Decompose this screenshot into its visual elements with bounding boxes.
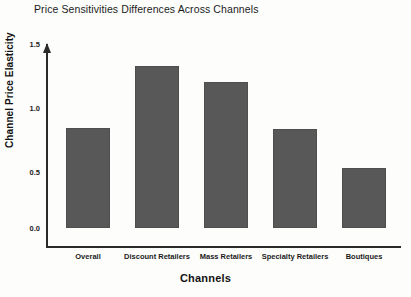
bars-layer — [48, 36, 401, 248]
bar-overall[interactable] — [66, 128, 110, 228]
bar-specialty-retailers[interactable] — [273, 129, 317, 228]
y-tick-label: 1.0 — [30, 104, 40, 113]
bar-group — [204, 36, 248, 228]
bar-mass-retailers[interactable] — [204, 82, 248, 228]
bar-group — [135, 36, 179, 228]
y-axis-title: Channel Price Elasticity — [4, 32, 15, 148]
chart-title: Price Sensitivities Differences Across C… — [34, 3, 259, 15]
bar-group — [273, 36, 317, 228]
y-tick-label: 0.5 — [30, 168, 40, 177]
bar-discount-retailers[interactable] — [135, 66, 179, 228]
x-axis-title: Channels — [0, 272, 411, 284]
y-tick-label: 0.0 — [30, 224, 40, 233]
bar-group — [66, 36, 110, 228]
x-category-label-boutiques: Boutiques — [346, 252, 383, 261]
bar-boutiques[interactable] — [342, 168, 386, 228]
x-category-label-overall: Overall — [75, 252, 100, 261]
x-category-label-mass-retailers: Mass Retailers — [200, 252, 253, 261]
plot-area: 1.5 1.0 0.5 0.0 Overall Discount Retaile… — [46, 36, 401, 248]
x-category-label-discount-retailers: Discount Retailers — [124, 252, 190, 261]
y-tick-label: 1.5 — [30, 40, 40, 49]
bar-chart: Price Sensitivities Differences Across C… — [0, 0, 411, 297]
bar-group — [342, 36, 386, 228]
x-category-label-specialty-retailers: Specialty Retailers — [262, 252, 329, 261]
